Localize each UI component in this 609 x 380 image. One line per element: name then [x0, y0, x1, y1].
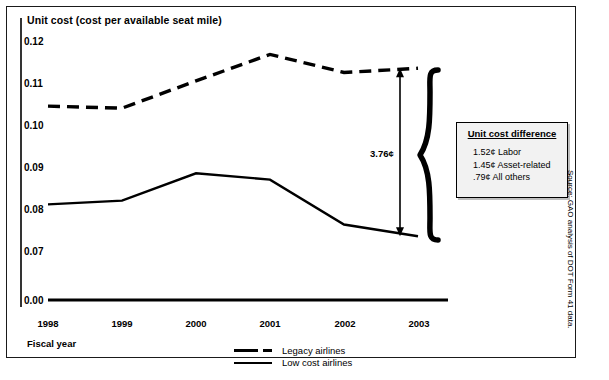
x-tick-1998: 1998	[25, 318, 71, 329]
chart-legend: Legacy airlines Low cost airlines	[232, 344, 352, 368]
legend-label-legacy-airlines: Legacy airlines	[276, 345, 345, 356]
callout-title: Unit cost difference	[457, 128, 567, 139]
y-tick-2: 0.10	[24, 120, 64, 131]
y-tick-3: 0.09	[24, 162, 64, 173]
callout-item-asset-related: 1.45¢ Asset-related	[473, 159, 567, 172]
x-axis-label: Fiscal year	[27, 338, 76, 349]
legend-entry-legacy-airlines: Legacy airlines	[232, 344, 352, 356]
x-tick-2002: 2002	[322, 318, 368, 329]
legend-swatch-solid-icon	[232, 356, 276, 368]
callout-list: 1.52¢ Labor 1.45¢ Asset-related .79¢ All…	[457, 146, 567, 184]
x-tick-1999: 1999	[99, 318, 145, 329]
difference-label: 3.76¢	[370, 148, 394, 159]
x-tick-2000: 2000	[173, 318, 219, 329]
y-tick-5: 0.07	[24, 246, 64, 257]
y-tick-0: 0.12	[24, 36, 64, 47]
source-note: Source: GAO analysis of DOT Form 41 data…	[566, 170, 575, 370]
x-tick-2003: 2003	[396, 318, 442, 329]
x-tick-2001: 2001	[247, 318, 293, 329]
y-tick-6: 0.00	[24, 295, 64, 306]
chart-title: Unit cost (cost per available seat mile)	[27, 14, 222, 26]
callout-item-labor: 1.52¢ Labor	[473, 146, 567, 159]
legend-swatch-dashed-icon	[232, 344, 276, 356]
legend-entry-low-cost-airlines: Low cost airlines	[232, 356, 352, 368]
chart-figure: Unit cost (cost per available seat mile)…	[0, 0, 609, 380]
y-tick-4: 0.08	[24, 204, 64, 215]
y-tick-1: 0.11	[24, 78, 64, 89]
callout-item-all-others: .79¢ All others	[473, 171, 567, 184]
legend-label-low-cost-airlines: Low cost airlines	[276, 357, 352, 368]
unit-cost-difference-callout: Unit cost difference 1.52¢ Labor 1.45¢ A…	[456, 122, 568, 198]
